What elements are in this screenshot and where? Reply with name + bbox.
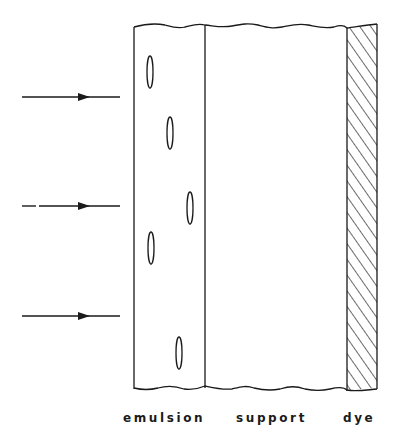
- grain: [167, 117, 173, 149]
- layer-boundaries: [134, 25, 205, 389]
- silver-grains: [147, 56, 193, 369]
- arrow-icon: [22, 93, 120, 101]
- grain: [148, 232, 154, 264]
- layer-labels: emulsion support dye: [123, 411, 375, 425]
- top-wavy-edge: [134, 24, 377, 28]
- bottom-wavy-edge: [134, 386, 377, 391]
- film-cross-section-diagram: emulsion support dye: [0, 0, 393, 439]
- label-support: support: [236, 411, 307, 425]
- grain: [176, 337, 182, 369]
- label-dye: dye: [343, 411, 375, 425]
- grain: [147, 56, 153, 88]
- dye-layer: [347, 24, 377, 391]
- grain: [187, 192, 193, 224]
- label-emulsion: emulsion: [123, 411, 205, 425]
- arrow-icon: [22, 312, 120, 320]
- arrow-icon: [22, 202, 120, 210]
- incident-light-arrows: [22, 93, 120, 320]
